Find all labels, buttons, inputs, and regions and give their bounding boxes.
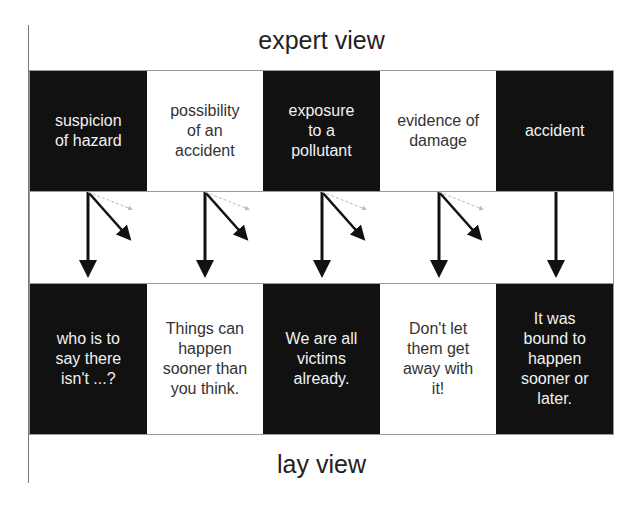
- expert-box-exposure: exposure to a pollutant: [263, 71, 380, 191]
- expert-box-suspicion: suspicion of hazard: [30, 71, 147, 191]
- arrow-band: [29, 192, 614, 283]
- lay-box-who-is-to-say: who is to say there isn't ...?: [30, 284, 147, 434]
- expert-box-evidence: evidence of damage: [380, 71, 497, 191]
- lay-row: who is to say there isn't ...? Things ca…: [29, 283, 614, 435]
- expert-box-accident: accident: [496, 71, 613, 191]
- arrow-group-1: [88, 192, 131, 272]
- expert-box-possibility: possibility of an accident: [147, 71, 264, 191]
- lay-view-title: lay view: [29, 450, 614, 479]
- lay-box-dont-let-them: Don't let them get away with it!: [380, 284, 497, 434]
- expert-view-title: expert view: [29, 26, 614, 55]
- arrows-graphic: [30, 192, 615, 283]
- expert-row: suspicion of hazard possibility of an ac…: [29, 70, 614, 192]
- arrow-group-3: [322, 192, 365, 272]
- lay-box-bound-to-happen: It was bound to happen sooner or later.: [496, 284, 613, 434]
- arrow-group-2: [205, 192, 248, 272]
- lay-box-things-can-happen: Things can happen sooner than you think.: [147, 284, 264, 434]
- arrow-group-4: [439, 192, 482, 272]
- lay-box-victims-already: We are all victims already.: [263, 284, 380, 434]
